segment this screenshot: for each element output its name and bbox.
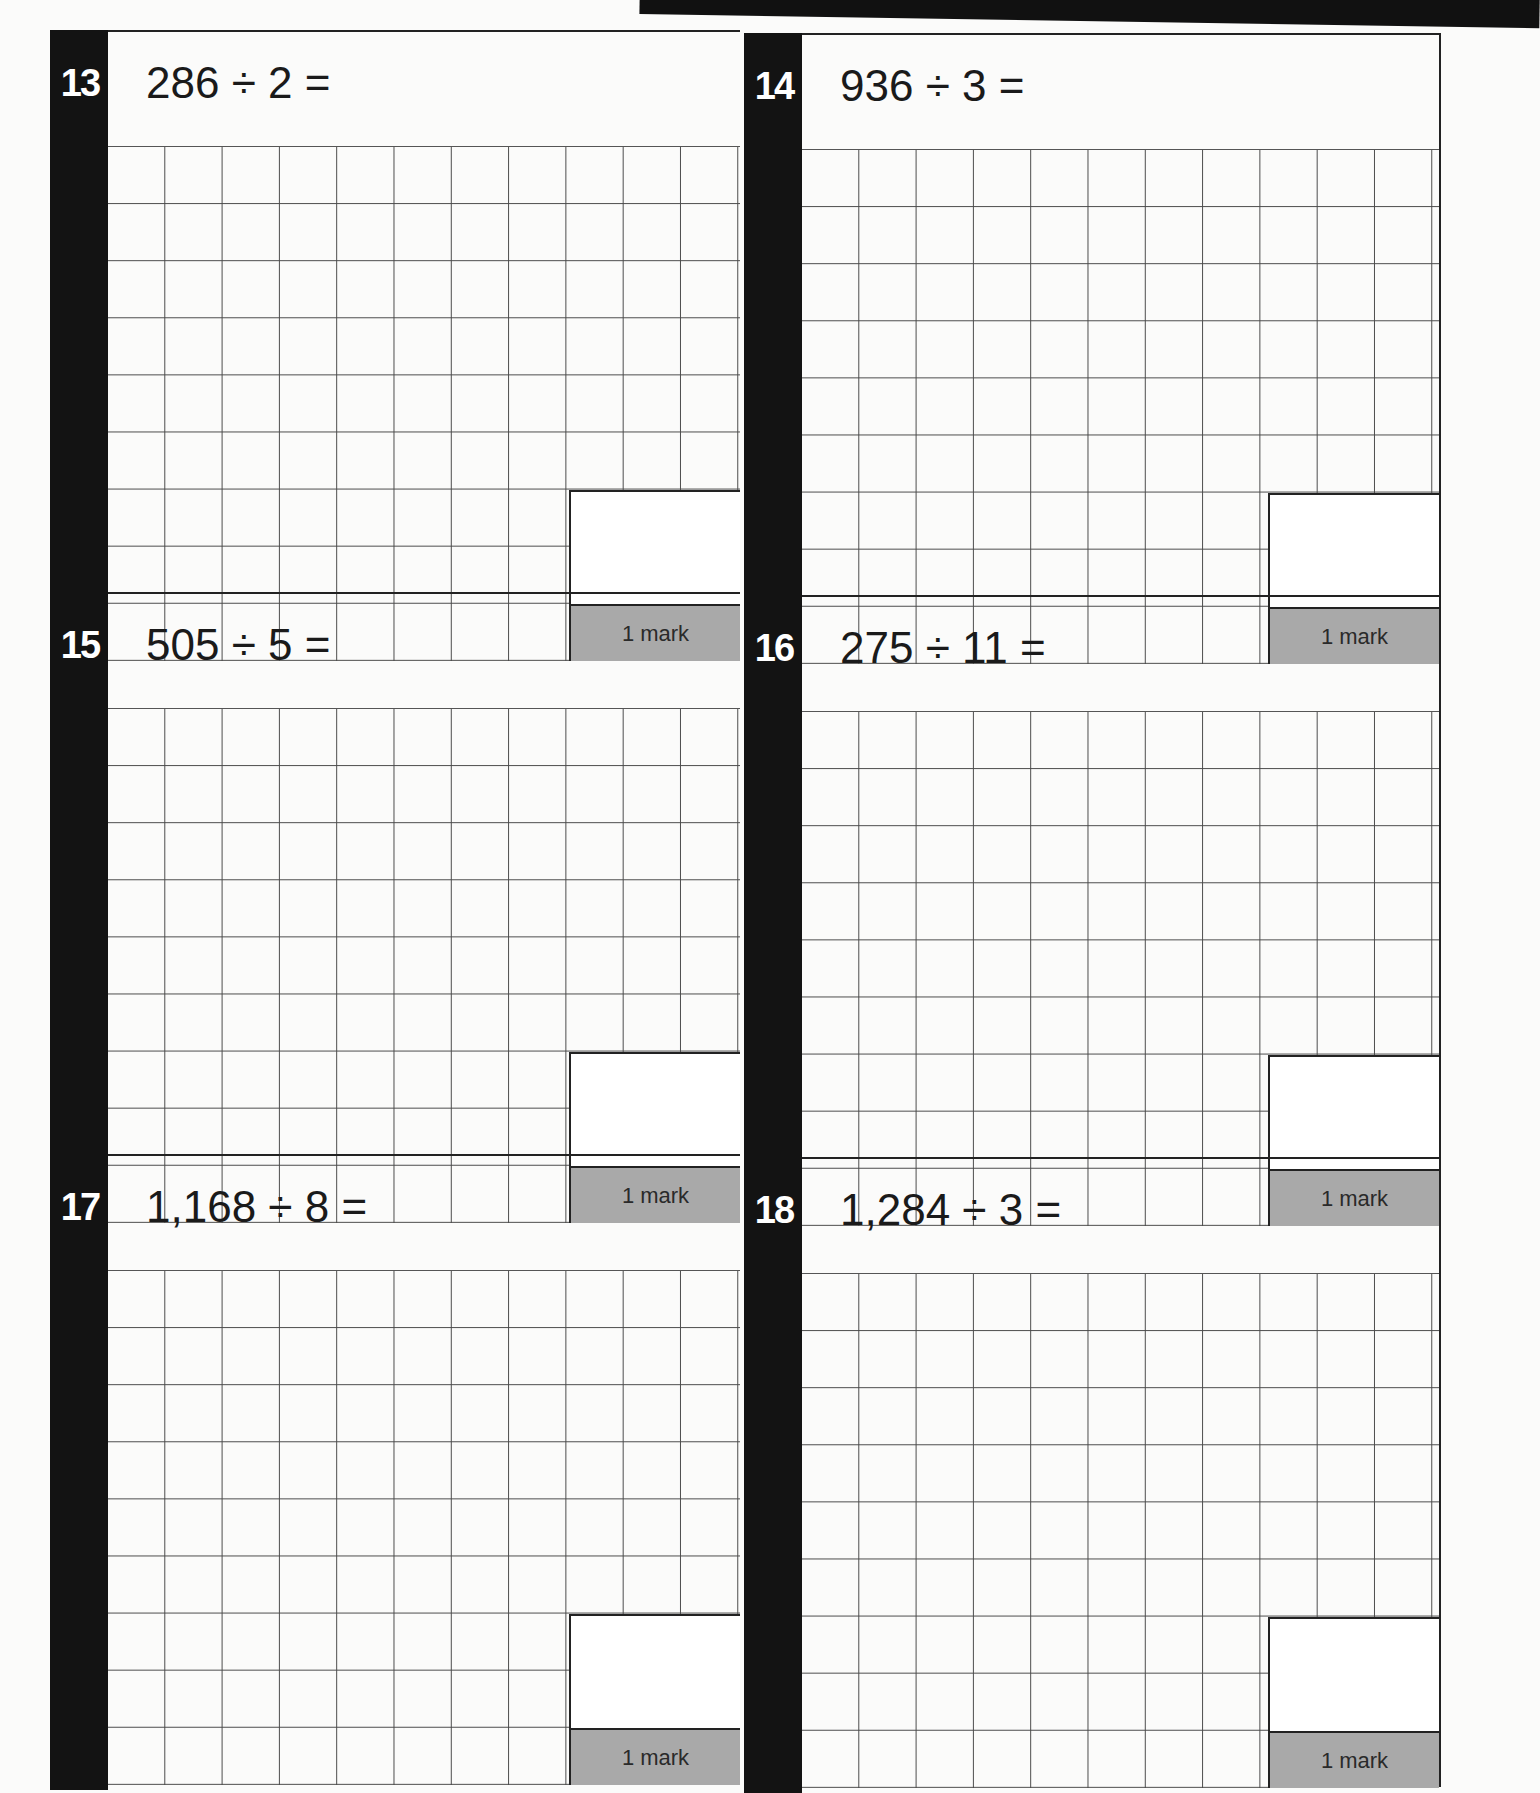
question-17-panel: 17 1,168 ÷ 8 = 1 mark [108,1154,740,1784]
working-grid[interactable]: 1 mark [802,711,1439,1226]
question-16-panel: 16 275 ÷ 11 = 1 mark [802,595,1441,1225]
question-number: 14 [746,65,802,108]
mark-label: 1 mark [571,1728,740,1785]
question-number: 15 [52,624,108,667]
page-edge-shadow [639,0,1539,28]
mark-label: 1 mark [1270,1731,1439,1788]
question-number-bar [744,33,802,1793]
right-question-column: 14 936 ÷ 3 = 1 mark 16 275 ÷ 11 = 1 mark… [744,33,1441,1793]
working-grid[interactable]: 1 mark [802,1273,1439,1788]
question-expression: 505 ÷ 5 = [146,620,330,670]
question-number: 13 [52,62,108,105]
question-expression: 275 ÷ 11 = [840,623,1046,673]
answer-box[interactable]: 1 mark [1268,1617,1439,1788]
question-expression: 1,284 ÷ 3 = [840,1185,1061,1235]
question-number: 17 [52,1186,108,1229]
question-expression: 286 ÷ 2 = [146,58,330,108]
question-18-panel: 18 1,284 ÷ 3 = 1 mark [802,1157,1441,1787]
question-number: 18 [746,1189,802,1232]
question-number: 16 [746,627,802,670]
left-question-column: 13 286 ÷ 2 = 1 mark 15 505 ÷ 5 = 1 mark … [50,30,740,1790]
question-expression: 936 ÷ 3 = [840,61,1024,111]
question-14-panel: 14 936 ÷ 3 = 1 mark [802,33,1441,663]
working-grid[interactable]: 1 mark [108,1270,740,1785]
question-15-panel: 15 505 ÷ 5 = 1 mark [108,592,740,1222]
question-13-panel: 13 286 ÷ 2 = 1 mark [108,30,740,660]
question-expression: 1,168 ÷ 8 = [146,1182,367,1232]
answer-box[interactable]: 1 mark [569,1614,740,1785]
working-grid[interactable]: 1 mark [108,708,740,1223]
question-number-bar [50,30,108,1790]
working-grid[interactable]: 1 mark [108,146,740,661]
working-grid[interactable]: 1 mark [802,149,1439,664]
